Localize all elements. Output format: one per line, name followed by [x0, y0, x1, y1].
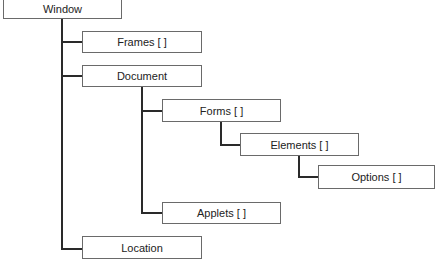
node-location: Location	[82, 236, 202, 259]
connector-elements-trunk	[298, 155, 300, 178]
connector-window-trunk	[61, 18, 63, 250]
connector-document-applets	[141, 212, 163, 214]
node-document: Document	[82, 65, 202, 87]
node-elements: Elements [ ]	[240, 133, 359, 156]
connector-elements-options	[298, 176, 319, 178]
connector-document-forms	[141, 110, 163, 112]
connector-window-frames	[61, 41, 83, 43]
node-applets: Applets [ ]	[162, 202, 281, 224]
node-window: Window	[3, 0, 122, 19]
connector-document-trunk	[141, 86, 143, 213]
node-forms: Forms [ ]	[162, 99, 281, 122]
connector-forms-trunk	[220, 121, 222, 146]
connector-window-document	[61, 75, 83, 77]
node-frames: Frames [ ]	[82, 31, 202, 53]
connector-window-location	[61, 248, 83, 250]
node-options: Options [ ]	[318, 165, 435, 189]
connector-forms-elements	[220, 144, 242, 146]
